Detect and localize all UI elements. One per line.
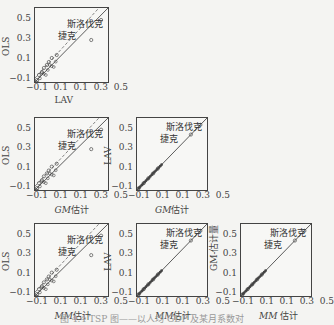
figure-caption: 图 4.4 TSP 图——以人均 GDP 及某月系数对 (60, 312, 244, 325)
x-axis-label-italic: GM (155, 205, 171, 215)
scatter-panel-p21: 斯洛伐克 捷克 0.50.30.1−0.1 −0.1 0.1 0.1 0.3 0… (34, 117, 107, 189)
x-ticks: −0.1 0.1 0.1 0.3 0.5 (128, 190, 230, 200)
annotation-czech: 捷克 (264, 238, 282, 251)
scatter-panel-p22: 斯洛伐克 捷克 0.50.30.1−0.1 −0.1 0.1 0.1 0.3 0… (136, 117, 206, 189)
plot-area: 斯洛伐克 捷克 (136, 117, 208, 191)
x-ticks: −0.1 0.1 0.1 0.3 0.5 (232, 296, 334, 306)
x-axis-label-italic: GM (55, 205, 71, 215)
x-axis-label: GM估计 (55, 203, 89, 216)
y-tick: 0.3 (119, 248, 133, 258)
x-axis-label: LAV (55, 95, 74, 105)
x-ticks: −0.1 0.1 0.1 0.3 0.5 (128, 296, 230, 306)
annotation-czech: 捷克 (58, 139, 76, 152)
y-tick: 0.5 (17, 13, 31, 23)
y-axis-label: OLS (1, 145, 11, 165)
x-ticks: −0.1 0.1 0.1 0.3 0.5 (26, 296, 128, 306)
x-axis-label: GM估计 (155, 203, 189, 216)
scatter-panel-p31: 斯洛伐克 捷克 0.50.30.1−0.1 −0.1 0.1 0.1 0.3 0… (34, 223, 107, 295)
y-tick: 0.5 (119, 229, 133, 239)
y-tick: 0.1 (223, 268, 237, 278)
y-tick: 0.3 (223, 248, 237, 258)
annotation-czech: 捷克 (160, 238, 178, 251)
y-tick: 0.3 (119, 142, 133, 152)
x-axis-label: MM 估计 (259, 309, 298, 322)
y-tick: 0.1 (17, 268, 31, 278)
plot-area: 斯洛伐克 捷克 (34, 223, 109, 297)
annotation-czech: 捷克 (58, 29, 76, 42)
x-axis-label-italic: MM (259, 311, 277, 321)
y-axis-label: OLS (1, 36, 11, 56)
y-axis-label: LAV (103, 252, 113, 271)
x-ticks: −0.1 0.1 0.1 0.3 0.5 (26, 190, 128, 200)
y-tick: 0.3 (17, 248, 31, 258)
plot-area: 斯洛伐克 捷克 (34, 7, 109, 83)
y-tick: 0.5 (17, 229, 31, 239)
y-tick: 0.1 (17, 162, 31, 172)
annotation-czech: 捷克 (160, 132, 178, 145)
y-tick: 0.3 (17, 142, 31, 152)
y-tick: 0.5 (223, 229, 237, 239)
y-tick: 0.5 (17, 123, 31, 133)
y-axis-label: GM-估计量 (207, 225, 220, 271)
annotation-czech: 捷克 (58, 245, 76, 258)
plot-area: 斯洛伐克 捷克 (240, 223, 312, 297)
plot-area: 斯洛伐克 捷克 (34, 117, 109, 191)
scatter-panel-p11: 斯洛伐克 捷克 0.50.30.1−0.1 −0.1 0.1 0.1 0.3 0… (34, 7, 107, 81)
y-tick: 0.1 (17, 53, 31, 63)
y-tick: 0.1 (119, 162, 133, 172)
plot-area: 斯洛伐克 捷克 (136, 223, 208, 297)
scatter-panel-p32: 斯洛伐克 捷克 0.50.30.1−0.1 −0.1 0.1 0.1 0.3 0… (136, 223, 206, 295)
y-tick: 0.5 (119, 123, 133, 133)
y-tick: 0.1 (119, 268, 133, 278)
y-tick: 0.3 (17, 33, 31, 43)
y-axis-label: LAV (103, 146, 113, 165)
x-ticks: −0.1 0.1 0.1 0.3 0.5 (26, 82, 128, 92)
y-axis-label: OLS (1, 251, 11, 271)
scatter-panel-p33: 斯洛伐克 捷克 0.50.30.1−0.1 −0.1 0.1 0.1 0.3 0… (240, 223, 310, 295)
